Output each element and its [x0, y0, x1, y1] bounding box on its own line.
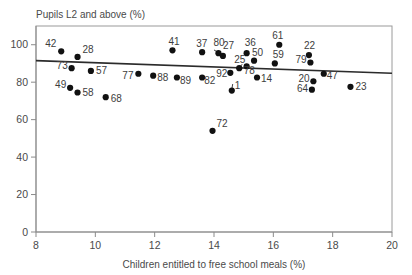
y-axis-title: Pupils L2 and above (%): [36, 9, 145, 20]
point-label-group: 4228734958576877884189378280722792125367…: [45, 30, 367, 129]
data-point: [220, 53, 226, 59]
data-point-label: 25: [234, 54, 246, 65]
x-tick-label: 10: [89, 239, 101, 251]
x-axis-title: Children entitled to free school meals (…: [123, 259, 306, 270]
data-point-label: 59: [273, 49, 285, 60]
data-point-label: 27: [223, 40, 235, 51]
data-point-label: 47: [327, 70, 339, 81]
x-tick-label: 16: [267, 239, 279, 251]
data-point-label: 89: [180, 75, 192, 86]
data-point: [58, 48, 64, 54]
data-point-label: 28: [83, 44, 95, 55]
data-point-label: 23: [355, 81, 367, 92]
data-point: [74, 54, 80, 60]
data-point-label: 42: [45, 38, 57, 49]
data-point-label: 64: [297, 83, 309, 94]
data-point-label: 78: [244, 65, 256, 76]
y-tick-group: 020406080100: [10, 38, 36, 237]
data-point-label: 88: [157, 72, 169, 83]
data-point-label: 22: [304, 40, 316, 51]
y-tick-label: 40: [16, 151, 28, 163]
data-point: [272, 60, 278, 66]
data-point-label: 1: [235, 80, 241, 91]
data-point-label: 68: [111, 93, 123, 104]
data-point-label: 49: [55, 79, 67, 90]
data-point: [310, 78, 316, 84]
data-point: [309, 87, 315, 93]
data-point-label: 61: [272, 30, 284, 41]
data-point: [276, 42, 282, 48]
data-point: [236, 65, 242, 71]
data-point-label: 92: [216, 68, 228, 79]
data-point: [67, 85, 73, 91]
data-point: [135, 71, 141, 77]
data-point: [347, 84, 353, 90]
data-point-label: 82: [204, 75, 216, 86]
data-point: [251, 58, 257, 64]
data-point: [307, 59, 313, 65]
data-point-label: 72: [217, 118, 229, 129]
data-point: [69, 65, 75, 71]
chart-canvas: 020406080100 8101214161820 Pupils L2 and…: [0, 0, 412, 275]
data-point-label: 58: [83, 87, 95, 98]
data-point-label: 14: [261, 73, 273, 84]
y-tick-label: 100: [10, 38, 28, 50]
data-point: [88, 68, 94, 74]
x-tick-label: 12: [149, 239, 161, 251]
data-point: [209, 128, 215, 134]
data-point-label: 37: [196, 38, 208, 49]
data-point: [254, 74, 260, 80]
data-point: [169, 47, 175, 53]
x-tick-group: 8101214161820: [33, 232, 398, 251]
data-point: [103, 94, 109, 100]
y-tick-label: 80: [16, 76, 28, 88]
y-tick-label: 60: [16, 113, 28, 125]
data-point: [150, 73, 156, 79]
data-point: [227, 70, 233, 76]
data-point: [74, 89, 80, 95]
data-point-label: 41: [168, 36, 180, 47]
data-point-label: 57: [96, 65, 108, 76]
data-point-label: 77: [122, 70, 134, 81]
x-tick-label: 14: [208, 239, 220, 251]
data-point: [306, 52, 312, 58]
data-point-label: 73: [57, 60, 69, 71]
x-tick-label: 8: [33, 239, 39, 251]
x-tick-label: 18: [327, 239, 339, 251]
y-tick-label: 20: [16, 188, 28, 200]
data-point-label: 50: [252, 47, 264, 58]
scatter-chart: 020406080100 8101214161820 Pupils L2 and…: [0, 0, 412, 275]
x-tick-label: 20: [386, 239, 398, 251]
data-point-group: [58, 42, 353, 134]
data-point: [199, 49, 205, 55]
y-tick-label: 0: [22, 226, 28, 238]
data-point-label: 79: [295, 54, 307, 65]
